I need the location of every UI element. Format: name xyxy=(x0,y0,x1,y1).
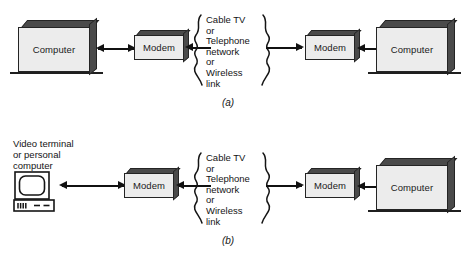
arrowhead-left-terminal-b xyxy=(59,181,67,189)
computer-box-right-b: Computer xyxy=(376,165,448,210)
modem-label: Modem xyxy=(133,180,165,191)
box-front-face: Modem xyxy=(305,35,355,60)
network-brace-left-b xyxy=(190,151,206,225)
network-line: Wireless xyxy=(206,206,250,217)
box-front-face: Modem xyxy=(305,173,355,198)
arrowhead-left-modem-right-a xyxy=(357,44,365,52)
video-terminal-label-b: Video terminal or personal computer xyxy=(13,138,74,171)
network-brace-right-b xyxy=(258,151,274,225)
modem-box-left-b: Modem xyxy=(124,173,174,198)
box-front-face: Computer xyxy=(18,27,90,72)
modem-label: Modem xyxy=(314,180,346,191)
computer-box-left-a: Computer xyxy=(18,27,90,72)
computer-label: Computer xyxy=(391,44,434,55)
modem-label: Modem xyxy=(314,42,346,53)
video-terminal-icon xyxy=(13,171,57,217)
network-line: Cable TV xyxy=(206,15,250,26)
box-front-face: Computer xyxy=(376,27,448,72)
arrowhead-right-modem-right-a xyxy=(296,43,304,51)
arrowhead-left-modem-b xyxy=(176,181,184,189)
figure-modem-network-diagram: Computer Modem Cable TV or Telephone net… xyxy=(0,0,464,254)
network-label-a: Cable TV or Telephone network or Wireles… xyxy=(206,15,250,89)
network-label-b: Cable TV or Telephone network or Wireles… xyxy=(206,153,250,227)
desk-line-right-b xyxy=(368,210,461,212)
panel-a: Computer Modem Cable TV or Telephone net… xyxy=(0,0,464,127)
modem-box-right-b: Modem xyxy=(305,173,355,198)
box-side-face xyxy=(447,18,455,76)
network-line: link xyxy=(206,217,250,228)
box-side-face xyxy=(447,156,455,214)
box-front-face: Computer xyxy=(376,165,448,210)
terminal-label-line: Video terminal xyxy=(13,138,74,149)
arrowhead-left-modem-right-b xyxy=(357,182,365,190)
connector-terminal-modem-b xyxy=(62,185,124,187)
panel-caption-a: (a) xyxy=(200,97,256,108)
arrowhead-left-computer-a xyxy=(96,44,104,52)
terminal-label-line: or personal xyxy=(13,149,74,160)
desk-line-right-a xyxy=(368,72,461,74)
panel-b: Video terminal or personal computer xyxy=(0,127,464,254)
terminal-label-line: computer xyxy=(13,160,74,171)
computer-label: Computer xyxy=(391,182,434,193)
network-line: Cable TV xyxy=(206,153,250,164)
modem-box-left-a: Modem xyxy=(134,35,184,60)
box-front-face: Modem xyxy=(124,173,174,198)
arrowhead-right-modem-right-b xyxy=(296,181,304,189)
panel-caption-b: (b) xyxy=(200,235,256,246)
computer-box-right-a: Computer xyxy=(376,27,448,72)
modem-label: Modem xyxy=(143,42,175,53)
box-front-face: Modem xyxy=(134,35,184,60)
network-brace-left-a xyxy=(190,13,206,87)
network-brace-right-a xyxy=(258,13,274,87)
computer-label: Computer xyxy=(33,44,76,55)
network-line: Wireless xyxy=(206,68,250,79)
network-line: link xyxy=(206,79,250,90)
modem-box-right-a: Modem xyxy=(305,35,355,60)
